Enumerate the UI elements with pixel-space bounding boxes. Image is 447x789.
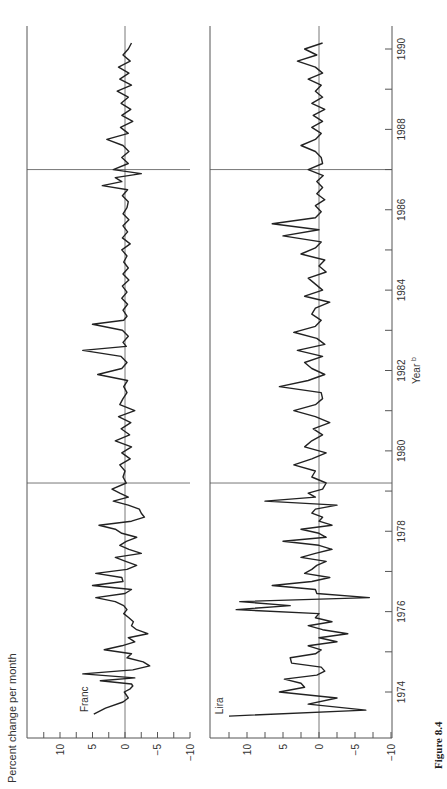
value-tick-label: 0 (314, 744, 325, 750)
figure-caption: Figure 8.4 (432, 721, 444, 769)
year-tick-label: 1984 (396, 279, 407, 302)
x-axis-title-superscript: b (410, 357, 417, 361)
series-line-franc (83, 43, 150, 714)
x-axis-years: 197419761978198019821984198619881990 (385, 26, 407, 738)
y-axis-title-text: Percent change per month (6, 653, 18, 783)
value-tick-label: 10 (55, 744, 66, 756)
year-tick-label: 1974 (396, 680, 407, 703)
series-label: Lira (214, 697, 225, 714)
value-tick-label: 5 (87, 744, 98, 750)
year-tick-label: 1986 (396, 198, 407, 221)
value-tick-label: 10 (242, 744, 253, 756)
rotated-chart: Percent change per month −10−50510Franc … (0, 0, 447, 789)
year-tick-label: 1978 (396, 520, 407, 543)
y-axis-title: Percent change per month (6, 653, 18, 783)
year-tick-label: 1990 (396, 37, 407, 60)
value-tick-label: −10 (185, 744, 196, 761)
year-tick-label: 1988 (396, 118, 407, 141)
year-tick-label: 1976 (396, 600, 407, 623)
series-line-lira (229, 43, 369, 716)
value-tick-label: 5 (278, 744, 289, 750)
panel-lira: −10−50510Lira (210, 26, 397, 761)
series-label: Franc (79, 687, 90, 713)
value-tick-label: −5 (350, 744, 361, 756)
value-tick-label: 0 (120, 744, 131, 750)
panel-franc: −10−50510Franc (27, 26, 196, 761)
x-axis-title: Year b (410, 357, 422, 384)
value-tick-label: −10 (386, 744, 397, 761)
value-tick-label: −5 (152, 744, 163, 756)
year-tick-label: 1980 (396, 439, 407, 462)
figure-container: Percent change per month −10−50510Franc … (0, 0, 447, 789)
year-tick-label: 1982 (396, 359, 407, 382)
